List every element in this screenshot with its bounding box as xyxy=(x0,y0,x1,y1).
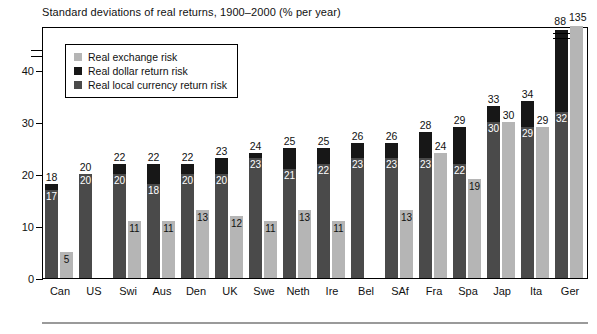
legend-swatch-icon xyxy=(74,81,82,89)
bar-exchange-risk: 11 xyxy=(332,221,345,278)
segment-dollar-risk xyxy=(453,127,466,163)
bar-exchange-risk: 29 xyxy=(536,127,549,278)
bar-local-value-label: 23 xyxy=(250,160,261,170)
bar-group: 282324 xyxy=(418,28,452,278)
y-tick-label: 10 xyxy=(4,221,34,233)
legend: Real exchange riskReal dollar return ris… xyxy=(65,44,238,98)
bar-dollar-return-risk: 2623 xyxy=(351,143,364,278)
bar-exchange-risk: 19 xyxy=(468,179,481,278)
segment-dollar-risk xyxy=(249,153,262,158)
bar-exchange-value-label: 13 xyxy=(299,213,310,223)
bar-group: 262313 xyxy=(384,28,418,278)
legend-label: Real dollar return risk xyxy=(88,65,188,77)
segment-dollar-risk xyxy=(419,132,432,158)
x-axis-tick-label: Swi xyxy=(119,285,137,297)
y-tick-label: 20 xyxy=(4,169,34,181)
bar-dollar-return-risk: 2220 xyxy=(113,164,126,278)
segment-local-currency-risk xyxy=(215,174,228,278)
segment-local-currency-risk xyxy=(45,190,58,278)
bar-total-value-label: 29 xyxy=(454,114,466,126)
bar-exchange-risk: 30 xyxy=(502,122,515,278)
bar-local-value-label: 23 xyxy=(352,160,363,170)
segment-local-currency-risk xyxy=(283,169,296,278)
y-tick-label: 30 xyxy=(4,117,34,129)
bar-group: 292219 xyxy=(452,28,486,278)
bar-local-value-label: 32 xyxy=(556,114,567,124)
bar-local-value-label: 17 xyxy=(46,192,57,202)
x-axis-tick-label: Ger xyxy=(561,285,579,297)
x-axis-tick-label: Ire xyxy=(326,285,339,297)
x-axis-tick-label: Bel xyxy=(358,285,374,297)
bar-exchange-value-label: 29 xyxy=(537,114,549,126)
segment-dollar-risk xyxy=(215,158,228,174)
footer-rule xyxy=(42,322,588,324)
x-axis-tick-label: Can xyxy=(50,285,70,297)
bar-total-value-label: 18 xyxy=(46,171,58,183)
bar-dollar-return-risk: 8832 xyxy=(555,30,568,278)
bar-group: 333030 xyxy=(486,28,520,278)
bar-dollar-return-risk: 2521 xyxy=(283,148,296,278)
bar-local-value-label: 30 xyxy=(488,124,499,134)
bar-dollar-return-risk: 2623 xyxy=(385,143,398,278)
segment-dollar-risk xyxy=(555,30,568,112)
bar-local-value-label: 23 xyxy=(386,160,397,170)
bar-dollar-return-risk: 2423 xyxy=(249,153,262,278)
bar-dollar-return-risk: 2020 xyxy=(79,174,92,278)
bar-exchange-value-label: 30 xyxy=(503,109,515,121)
bar-exchange-value-label: 11 xyxy=(129,224,139,234)
bar-dollar-return-risk: 1817 xyxy=(45,184,58,278)
bar-local-value-label: 20 xyxy=(216,176,227,186)
bar-exchange-risk: 135 xyxy=(570,26,583,278)
segment-local-currency-risk xyxy=(521,127,534,278)
bar-dollar-return-risk: 2922 xyxy=(453,127,466,278)
bar-dollar-return-risk: 2823 xyxy=(419,132,432,278)
segment-dollar-risk xyxy=(181,164,194,174)
bar-local-value-label: 22 xyxy=(318,166,329,176)
segment-dollar-risk xyxy=(317,148,330,164)
y-tick-label: 40 xyxy=(4,65,34,77)
bar-local-value-label: 20 xyxy=(80,176,91,186)
bar-exchange-value-label: 24 xyxy=(435,140,447,152)
bar-dollar-return-risk: 2218 xyxy=(147,164,160,278)
y-tick-label: 0 xyxy=(4,273,34,285)
legend-swatch-icon xyxy=(74,67,82,75)
legend-swatch-icon xyxy=(74,53,82,61)
bar-total-value-label: 23 xyxy=(216,145,228,157)
x-axis-tick-label: Den xyxy=(186,285,206,297)
bar-total-value-label: 22 xyxy=(114,151,126,163)
bar-exchange-risk: 11 xyxy=(162,221,175,278)
segment-local-currency-risk xyxy=(419,158,432,278)
bar-exchange-value-label: 135 xyxy=(569,11,587,23)
chart-figure: Standard deviations of real returns, 190… xyxy=(0,0,597,334)
x-axis-tick-label: Jap xyxy=(493,285,511,297)
x-axis-tick-label: Spa xyxy=(458,285,478,297)
x-axis-tick-label: Swe xyxy=(253,285,274,297)
x-axis-labels: CanUSSwiAusDenUKSweNethIreBelSAfFraSpaJa… xyxy=(42,285,588,303)
segment-local-currency-risk xyxy=(317,164,330,278)
bar-exchange-value-label: 19 xyxy=(469,182,480,192)
segment-local-currency-risk xyxy=(385,158,398,278)
bar-total-value-label: 34 xyxy=(522,88,534,100)
segment-local-currency-risk xyxy=(487,122,500,278)
bar-dollar-return-risk: 2220 xyxy=(181,164,194,278)
segment-local-currency-risk xyxy=(453,164,466,278)
legend-label: Real exchange risk xyxy=(88,51,177,63)
bar-local-value-label: 29 xyxy=(522,129,533,139)
bar-total-value-label: 22 xyxy=(182,151,194,163)
bar-dollar-return-risk: 2522 xyxy=(317,148,330,278)
bar-exchange-value-label: 13 xyxy=(197,213,208,223)
x-axis-tick-label: Fra xyxy=(426,285,443,297)
chart-title: Standard deviations of real returns, 190… xyxy=(42,6,341,18)
bar-total-value-label: 26 xyxy=(352,130,364,142)
bar-exchange-value-label: 12 xyxy=(231,219,242,229)
bar-exchange-value-label: 5 xyxy=(64,255,70,265)
bar-total-value-label: 22 xyxy=(148,151,160,163)
bar-exchange-value-label: 13 xyxy=(401,213,412,223)
segment-local-currency-risk xyxy=(555,112,568,278)
legend-item: Real dollar return risk xyxy=(74,64,227,78)
x-axis-tick-label: SAf xyxy=(391,285,409,297)
bar-group: 252211 xyxy=(316,28,350,278)
bar-exchange-value-label: 11 xyxy=(265,224,275,234)
segment-dollar-risk xyxy=(521,101,534,127)
x-axis-tick-label: Ita xyxy=(530,285,542,297)
